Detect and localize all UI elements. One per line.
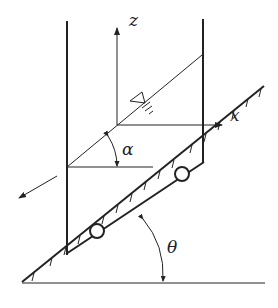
z-axis-label: z <box>128 10 139 30</box>
tank-incline-diagram: θ z x α <box>0 0 278 308</box>
wheel-upper <box>175 167 189 181</box>
alpha-angle: α <box>67 136 153 167</box>
incline <box>22 86 265 283</box>
axes <box>117 28 222 125</box>
motion-arrow <box>19 176 57 198</box>
theta-angle: θ <box>143 219 177 281</box>
free-surface <box>67 55 202 167</box>
alpha-arc <box>108 136 117 166</box>
theta-arc <box>143 219 163 281</box>
x-axis-label: x <box>230 105 240 125</box>
container <box>66 19 204 255</box>
free-surface-line <box>67 55 202 167</box>
diagram-canvas: θ z x α <box>0 0 278 308</box>
incline-surface <box>22 86 264 282</box>
alpha-label: α <box>122 139 134 159</box>
theta-label: θ <box>167 237 177 257</box>
free-surface-triangle-icon <box>130 92 145 103</box>
